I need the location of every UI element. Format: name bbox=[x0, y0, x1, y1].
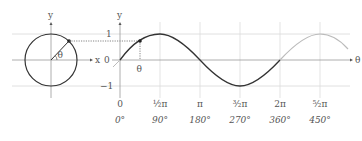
sine-panel: y θ θ 1 0 −1 bbox=[100, 10, 360, 98]
deg-label-3: 270° bbox=[228, 115, 251, 125]
deg-label-1: 90° bbox=[152, 115, 168, 125]
curve-point bbox=[138, 39, 142, 43]
circle-x-arrow-icon bbox=[90, 59, 93, 62]
sine-curve-extended bbox=[280, 34, 348, 60]
rad-label-1: ½π bbox=[153, 99, 168, 109]
circle-y-label: y bbox=[47, 10, 54, 20]
rad-label-4: 2π bbox=[274, 99, 286, 109]
y-tick-1: 1 bbox=[106, 29, 112, 39]
rad-label-5: ⁵⁄₂π bbox=[313, 99, 328, 109]
rad-label-2: π bbox=[197, 99, 203, 109]
y-tick-0: 0 bbox=[104, 55, 110, 65]
radian-labels: 0 ½π π ³⁄₂π 2π ⁵⁄₂π bbox=[117, 99, 327, 109]
rad-label-0: 0 bbox=[117, 99, 123, 109]
deg-label-4: 360° bbox=[269, 115, 291, 125]
deg-label-2: 180° bbox=[189, 115, 211, 125]
circle-y-arrow-icon bbox=[50, 22, 53, 25]
circle-angle-label: θ bbox=[58, 50, 63, 60]
theta-marker-label: θ bbox=[137, 64, 142, 74]
deg-label-0: 0° bbox=[115, 115, 125, 125]
curve-lead-in bbox=[113, 60, 120, 67]
deg-label-5: 450° bbox=[308, 115, 331, 125]
unit-circle-panel: θ x y bbox=[12, 10, 100, 98]
sine-y-arrow-icon bbox=[119, 22, 122, 25]
sine-theta-arrow-icon bbox=[350, 59, 353, 62]
degree-labels: 0° 90° 180° 270° 360° 450° bbox=[115, 115, 331, 125]
circle-x-label: x bbox=[95, 55, 100, 65]
rad-label-3: ³⁄₂π bbox=[233, 99, 248, 109]
y-tick-minus1: −1 bbox=[100, 81, 113, 91]
sine-y-label: y bbox=[116, 10, 123, 20]
sine-theta-label: θ bbox=[355, 55, 360, 65]
sine-unit-circle-diagram: θ x y y θ θ 1 0 −1 0 ½π π ³⁄₂π 2π ⁵⁄₂π 0 bbox=[0, 0, 362, 141]
